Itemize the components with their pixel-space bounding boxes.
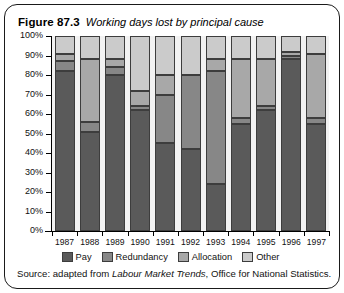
bar-segment[interactable]: [231, 36, 251, 59]
y-tick-mark: [46, 114, 51, 115]
y-tick-mark: [46, 134, 51, 135]
x-tick-label: 1997: [302, 237, 331, 247]
bar-segment[interactable]: [281, 52, 301, 56]
bar-segment[interactable]: [281, 36, 301, 52]
bar-column[interactable]: [130, 36, 150, 231]
y-axis-line: [51, 36, 52, 232]
bar-segment[interactable]: [105, 36, 125, 59]
x-tick-mark: [279, 231, 280, 236]
x-axis-line: [45, 231, 330, 232]
bar-segment[interactable]: [55, 71, 75, 231]
bar-segment[interactable]: [55, 61, 75, 71]
bar-segment[interactable]: [80, 122, 100, 132]
x-tick-mark: [329, 231, 330, 236]
bar-segment[interactable]: [181, 75, 201, 149]
bar-segment[interactable]: [55, 54, 75, 62]
bar-column[interactable]: [105, 36, 125, 231]
y-tick-label: 20%: [9, 187, 43, 196]
bar-column[interactable]: [306, 36, 326, 231]
y-tick-label: 10%: [9, 207, 43, 216]
figure-card: Figure 87.3Working days lost by principa…: [4, 4, 340, 289]
source-suffix: , Office for National Statistics.: [206, 268, 332, 279]
bar-segment[interactable]: [130, 106, 150, 110]
x-tick-mark: [128, 231, 129, 236]
bar-column[interactable]: [55, 36, 75, 231]
bar-segment[interactable]: [256, 106, 276, 110]
bar-column[interactable]: [206, 36, 226, 231]
bar-segment[interactable]: [206, 71, 226, 184]
legend-swatch-icon: [102, 252, 113, 262]
bar-column[interactable]: [281, 36, 301, 231]
bar-segment[interactable]: [55, 36, 75, 54]
legend-swatch-icon: [178, 252, 189, 262]
bar-segment[interactable]: [181, 149, 201, 231]
y-tick-label: 70%: [9, 90, 43, 99]
bar-segment[interactable]: [105, 59, 125, 67]
source-publication: Labour Market Trends: [112, 268, 206, 279]
y-tick-mark: [46, 212, 51, 213]
bar-segment[interactable]: [206, 184, 226, 231]
y-tick-label: 100%: [9, 31, 43, 40]
x-tick-mark: [203, 231, 204, 236]
bar-segment[interactable]: [231, 118, 251, 124]
legend-label: Other: [256, 252, 279, 262]
bar-segment[interactable]: [206, 59, 226, 71]
y-tick-label: 90%: [9, 51, 43, 60]
y-tick-label: 60%: [9, 109, 43, 118]
y-tick-mark: [46, 173, 51, 174]
bar-segment[interactable]: [281, 59, 301, 231]
bar-segment[interactable]: [206, 36, 226, 59]
bar-segment[interactable]: [231, 124, 251, 231]
x-tick-mark: [102, 231, 103, 236]
bar-column[interactable]: [181, 36, 201, 231]
legend-swatch-icon: [242, 252, 253, 262]
bar-segment[interactable]: [306, 36, 326, 54]
bar-segment[interactable]: [231, 59, 251, 118]
legend-entry[interactable]: Pay: [62, 252, 92, 262]
bar-column[interactable]: [231, 36, 251, 231]
legend-entry[interactable]: Other: [242, 252, 279, 262]
y-tick-mark: [46, 75, 51, 76]
bar-segment[interactable]: [181, 36, 201, 75]
bar-column[interactable]: [155, 36, 175, 231]
bar-segment[interactable]: [256, 110, 276, 231]
y-tick-mark: [46, 231, 51, 232]
bar-segment[interactable]: [105, 75, 125, 231]
legend-entry[interactable]: Allocation: [178, 252, 232, 262]
bar-segment[interactable]: [130, 91, 150, 107]
bar-column[interactable]: [80, 36, 100, 231]
bar-segment[interactable]: [256, 36, 276, 59]
chart-legend: PayRedundancyAllocationOther: [5, 250, 341, 264]
y-tick-mark: [46, 95, 51, 96]
source-note: Source: adapted from Labour Market Trend…: [17, 268, 333, 279]
bar-segment[interactable]: [80, 59, 100, 121]
legend-swatch-icon: [62, 252, 73, 262]
bar-segment[interactable]: [130, 36, 150, 91]
legend-entry[interactable]: Redundancy: [102, 252, 168, 262]
bar-segment[interactable]: [155, 75, 175, 95]
bar-segment[interactable]: [80, 36, 100, 59]
bar-segment[interactable]: [306, 54, 326, 118]
bar-segment[interactable]: [306, 124, 326, 231]
bar-segment[interactable]: [130, 110, 150, 231]
bar-segment[interactable]: [281, 56, 301, 60]
y-tick-mark: [46, 36, 51, 37]
chart-plot: 0%10%20%30%40%50%60%70%80%90%100% 198719…: [5, 5, 341, 245]
legend-label: Redundancy: [116, 252, 168, 262]
bar-segment[interactable]: [80, 132, 100, 231]
y-tick-mark: [46, 153, 51, 154]
y-tick-label: 40%: [9, 148, 43, 157]
legend-label: Pay: [76, 252, 92, 262]
x-tick-mark: [304, 231, 305, 236]
bar-column[interactable]: [256, 36, 276, 231]
x-tick-mark: [178, 231, 179, 236]
bar-segment[interactable]: [155, 36, 175, 75]
y-tick-label: 30%: [9, 168, 43, 177]
bar-segment[interactable]: [306, 118, 326, 124]
bar-segment[interactable]: [155, 95, 175, 144]
x-tick-mark: [52, 231, 53, 236]
bar-segment[interactable]: [256, 59, 276, 106]
y-tick-label: 80%: [9, 70, 43, 79]
bar-segment[interactable]: [105, 67, 125, 75]
bar-segment[interactable]: [155, 143, 175, 231]
